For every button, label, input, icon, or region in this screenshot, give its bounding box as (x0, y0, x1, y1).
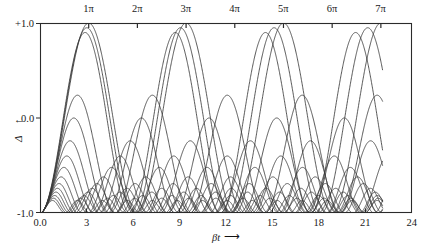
x-tick-label-1: 3 (84, 217, 89, 228)
x-tick-label-8: 24 (407, 217, 418, 228)
x-axis-arrow-icon: ⟶ (224, 230, 240, 243)
curve-detuning-0 (40, 23, 383, 213)
curve-detuning-1 (40, 28, 383, 213)
x-tick-label-4: 12 (221, 217, 232, 228)
top-tick-label-0: 1π (83, 3, 94, 14)
y-axis-title: Δ (12, 135, 24, 141)
x-tick-label-2: 6 (131, 217, 136, 228)
chart-plot-area (0, 0, 424, 247)
chart-figure: 1π 2π 3π 4π 5π 6π 7π 0.0 3 6 9 12 15 18 … (0, 0, 424, 247)
x-tick-label-7: 21 (360, 217, 371, 228)
top-tick-label-1: 2π (132, 3, 143, 14)
x-tick-label-6: 18 (314, 217, 325, 228)
y-tick-label-2: -1.0 (17, 208, 34, 219)
y-axis-arrow-icon: ↑ (12, 118, 24, 124)
top-tick-label-5: 6π (327, 3, 338, 14)
y-tick-label-0: +1.0 (15, 18, 34, 29)
x-tick-label-3: 9 (177, 217, 182, 228)
top-tick-label-4: 5π (278, 3, 289, 14)
x-axis-title: βt (212, 232, 220, 243)
top-tick-label-2: 3π (181, 3, 192, 14)
x-tick-label-0: 0.0 (34, 217, 47, 228)
top-tick-label-3: 4π (229, 3, 240, 14)
top-tick-label-6: 7π (375, 3, 386, 14)
x-tick-label-5: 15 (267, 217, 278, 228)
